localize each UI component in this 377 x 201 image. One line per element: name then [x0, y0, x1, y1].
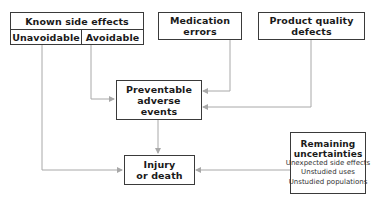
injury-or-death-box: Injury or death [124, 155, 195, 185]
remaining-item: Unexpected side effects [286, 159, 370, 169]
avoidable-cell: Avoidable [82, 30, 143, 44]
injury-line1: Injury [144, 159, 176, 170]
medication-errors-line1: Medication [170, 15, 230, 26]
remaining-title1: Remaining [301, 139, 356, 149]
medication-errors-line2: errors [183, 26, 216, 37]
known-side-effects-title: Known side effects [11, 13, 143, 30]
injury-line2: or death [136, 170, 182, 181]
preventable-line3: events [141, 106, 178, 117]
preventable-adverse-events-box: Preventable adverse events [116, 80, 202, 120]
product-quality-line2: defects [291, 26, 331, 37]
edge-product-preventable [203, 39, 311, 107]
product-quality-line1: Product quality [270, 15, 354, 26]
remaining-item: Unstudied populations [289, 178, 368, 188]
edge-avoidable-preventable [91, 44, 114, 99]
edge-medication-preventable [203, 39, 230, 91]
remaining-uncertainties-box: Remaining uncertainties Unexpected side … [290, 132, 366, 194]
preventable-line1: Preventable [126, 84, 192, 95]
unavoidable-cell: Unavoidable [11, 30, 82, 44]
known-side-effects-box: Known side effects Unavoidable Avoidable [10, 12, 144, 45]
product-quality-defects-box: Product quality defects [258, 12, 365, 40]
preventable-line2: adverse [137, 95, 180, 106]
remaining-title2: uncertainties [294, 149, 363, 159]
edge-unavoidable-injury [42, 44, 122, 170]
medication-errors-box: Medication errors [158, 12, 242, 40]
remaining-item: Unstudied uses [301, 168, 355, 178]
